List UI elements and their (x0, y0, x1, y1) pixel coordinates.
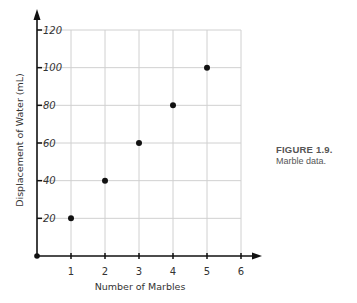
x-tick-label: 5 (204, 266, 210, 277)
x-axis-title: Number of Marbles (95, 281, 186, 292)
y-axis-title: Displacement of Water (mL) (14, 73, 25, 207)
figure-caption: FIGURE 1.9. Marble data. (276, 144, 333, 166)
y-tick-label: 60 (43, 138, 56, 149)
x-tick-label: 4 (170, 266, 176, 277)
data-point (136, 140, 142, 146)
y-tick-label: 80 (43, 100, 56, 111)
data-point (170, 102, 176, 108)
ticks: 12345620406080100120 (37, 25, 244, 278)
y-tick-label: 120 (43, 25, 62, 36)
y-tick-label: 40 (43, 175, 56, 186)
x-tick-label: 3 (136, 266, 142, 277)
figure-caption-text: Marble data. (276, 156, 333, 166)
data-point (102, 178, 108, 184)
y-tick-label: 20 (43, 213, 56, 224)
x-tick-label: 2 (102, 266, 108, 277)
figure-label: FIGURE 1.9. (276, 144, 333, 155)
data-point (68, 215, 74, 221)
x-tick-label: 1 (68, 266, 74, 277)
x-tick-label: 6 (238, 266, 244, 277)
data-point (204, 65, 210, 71)
y-tick-label: 100 (43, 62, 62, 73)
axes (34, 9, 263, 260)
